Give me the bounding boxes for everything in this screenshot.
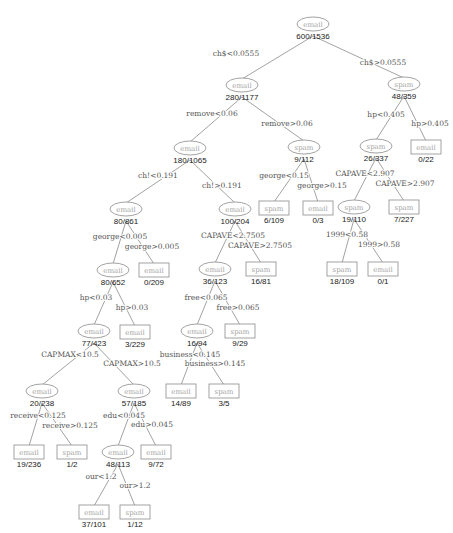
split-condition-label: business<0.145 [160,350,221,359]
leaf-node-spam: spam6/109 [259,201,289,225]
split-node-email: email280/1177 [226,78,259,102]
split-condition-label: CAPAVE>2.7505 [228,241,292,250]
node-count-label: 1/2 [66,460,78,469]
node-class-label: email [225,206,245,214]
tree-edge [29,403,42,446]
split-condition-label: CAPAVE<2.7505 [201,231,265,240]
node-class-label: email [373,266,393,274]
split-node-email: email48/113 [102,445,134,469]
split-condition-label: our>1.2 [119,481,150,490]
tree-edge [342,219,354,263]
node-count-label: 48/113 [106,460,130,469]
tree-edge [197,281,215,325]
node-class-label: email [84,509,104,517]
node-count-label: 1/12 [127,520,143,529]
leaf-node-spam: spam16/81 [246,262,276,286]
node-count-label: 6/109 [264,216,285,225]
split-condition-label: george>0.005 [125,242,180,251]
node-class-label: email [144,267,164,275]
node-class-label: email [124,388,144,396]
split-node-spam: spam19/110 [338,200,370,224]
split-condition-label: free<0.065 [185,293,228,302]
node-class-label: spam [333,266,352,274]
leaf-node-email: email0/3 [303,201,333,225]
node-count-label: 16/94 [187,339,208,348]
split-condition-label: ch$<0.0555 [213,49,260,58]
node-count-label: 19/236 [17,460,42,469]
node-class-label: email [32,388,52,396]
node-count-label: 14/89 [171,399,192,408]
split-condition-label: CAPAVE<2.907 [335,169,394,178]
leaf-node-email: email19/236 [14,445,44,469]
leaf-node-email: email3/229 [120,325,150,349]
node-class-label: spam [63,449,82,457]
node-class-label: email [125,329,145,337]
split-node-email: email20/238 [26,384,58,408]
node-count-label: 3/5 [218,399,230,408]
split-condition-label: CAPMAX<10.5 [41,350,99,359]
node-class-label: spam [231,328,250,336]
split-node-email: email16/94 [181,324,213,348]
node-count-label: 0/3 [312,216,324,225]
node-count-label: 100/204 [221,217,250,226]
node-count-label: 180/1065 [173,156,207,165]
decision-tree: ch$<0.0555ch$>0.0555remove<0.06remove>0.… [0,0,453,533]
tree-edge [354,158,376,201]
node-class-label: email [19,449,39,457]
node-class-label: email [232,82,252,90]
split-condition-label: george<0.005 [93,232,148,241]
split-condition-label: remove>0.06 [261,119,313,128]
node-class-label: spam [367,143,386,151]
leaf-node-spam: spam3/5 [209,384,239,408]
split-node-email: email36/123 [199,262,231,286]
split-node-email: email600/1536 [296,17,330,41]
split-node-spam: spam48/359 [388,77,420,101]
split-condition-label: business>0.145 [185,359,246,368]
split-node-spam: spam26/337 [360,139,392,163]
tree-edge [94,282,113,325]
leaf-node-spam: spam1/12 [120,505,150,529]
split-node-email: email100/204 [219,202,251,226]
leaf-node-spam: spam18/109 [327,262,357,286]
node-class-label: email [108,449,128,457]
node-count-label: 0/1 [377,277,389,286]
split-condition-label: ch$>0.0555 [360,58,407,67]
leaf-node-email: email14/89 [166,384,196,408]
leaf-node-email: email37/101 [79,505,109,529]
split-condition-label: ch!>0.191 [202,181,242,190]
node-count-label: 80/652 [101,278,126,287]
tree-edge [126,160,190,203]
split-condition-label: hp<0.405 [367,110,405,119]
node-class-label: spam [265,205,284,213]
split-node-email: email77/423 [78,324,110,348]
split-condition-label: our<1.2 [85,472,116,481]
node-count-label: 37/101 [82,520,107,529]
node-class-label: spam [215,388,234,396]
node-count-label: 3/229 [125,340,146,349]
split-condition-label: receive<0.125 [10,411,66,420]
node-class-label: spam [252,266,271,274]
node-count-label: 9/72 [148,460,164,469]
split-condition-label: CAPAVE>2.907 [375,179,434,188]
node-class-label: email [84,328,104,336]
node-count-label: 26/337 [364,154,389,163]
node-class-label: spam [395,81,414,89]
leaf-node-email: email9/72 [141,445,171,469]
tree-edge [190,97,242,142]
split-condition-label: hp>0.03 [116,303,149,312]
node-class-label: email [180,145,200,153]
node-count-label: 16/81 [251,277,272,286]
node-count-label: 7/227 [394,215,415,224]
split-node-email: email80/652 [97,263,129,287]
node-class-label: email [303,21,323,29]
split-condition-label: ch!<0.191 [138,171,178,180]
node-count-label: 80/861 [114,217,139,226]
tree-edge [313,36,404,78]
split-node-spam: spam9/112 [288,140,320,164]
tree-nodes: email600/1536email280/1177spam48/359emai… [14,17,441,529]
leaf-node-email: email0/22 [411,140,441,164]
split-condition-label: hp>0.405 [411,119,449,128]
split-node-email: email80/861 [110,202,142,226]
node-count-label: 36/123 [203,277,228,286]
split-condition-label: 1999<0.58 [326,230,368,239]
